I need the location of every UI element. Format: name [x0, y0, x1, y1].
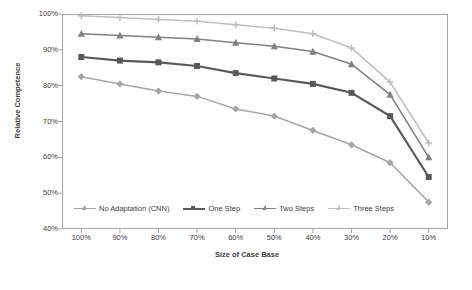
x-tick-30: 30% [335, 233, 369, 242]
plot-area [62, 14, 448, 229]
legend-swatch-square-icon [183, 204, 205, 213]
y-axis-title: Relative Competence [13, 36, 22, 166]
x-tick-10: 10% [412, 233, 446, 242]
x-tick-40: 40% [296, 233, 330, 242]
y-tick-100: 100% [28, 10, 58, 18]
legend-label-0: No Adaptation (CNN) [99, 204, 169, 213]
legend-item-3[interactable]: Three Steps [328, 204, 394, 213]
chart-container: 100%90%80%70%60%50%40% 100%90%80%70%60%5… [0, 0, 472, 290]
legend-label-3: Three Steps [353, 204, 394, 213]
legend-item-1[interactable]: One Step [183, 204, 240, 213]
legend-swatch-cross-icon [328, 204, 350, 213]
y-tick-60: 60% [28, 153, 58, 161]
y-tick-90: 90% [28, 46, 58, 54]
y-tick-70: 70% [28, 118, 58, 126]
y-tick-40: 40% [28, 225, 58, 233]
y-tick-80: 80% [28, 82, 58, 90]
legend-item-2[interactable]: Two Steps [254, 204, 314, 213]
x-tick-20: 20% [373, 233, 407, 242]
y-axis-tick-labels: 100%90%80%70%60%50%40% [26, 0, 58, 290]
legend-label-2: Two Steps [279, 204, 314, 213]
x-tick-80: 80% [142, 233, 176, 242]
legend-swatch-triangle-icon [254, 204, 276, 213]
x-tick-60: 60% [219, 233, 253, 242]
x-tick-50: 50% [257, 233, 291, 242]
legend-label-1: One Step [208, 204, 240, 213]
x-tick-90: 90% [103, 233, 137, 242]
x-axis-title: Size of Case Base [0, 250, 472, 259]
legend-swatch-diamond-icon [74, 204, 96, 213]
legend-item-0[interactable]: No Adaptation (CNN) [74, 204, 169, 213]
x-tick-100: 100% [64, 233, 98, 242]
y-tick-50: 50% [28, 189, 58, 197]
x-tick-70: 70% [180, 233, 214, 242]
chart-legend: No Adaptation (CNN)One StepTwo StepsThre… [74, 198, 394, 218]
